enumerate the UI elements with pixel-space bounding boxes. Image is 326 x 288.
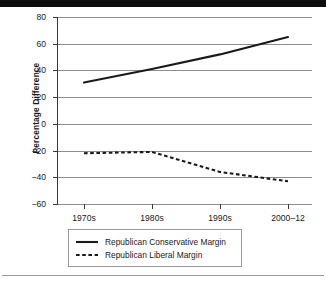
y-tick-label-0: 0 [41, 119, 46, 129]
line-chart-figure: Percentage Difference 80 60 40 20 0 −20 [0, 7, 326, 275]
chart-legend: Republican Conservative Margin Republica… [68, 229, 242, 267]
x-tick-label-1990s: 1990s [208, 213, 231, 223]
page-top-rule [0, 0, 326, 7]
y-axis-title: Percentage Difference [31, 28, 41, 188]
y-tick-label-80: 80 [36, 12, 46, 22]
series-line-republican-conservative-margin [84, 37, 288, 82]
legend-item-republican-liberal-margin: Republican Liberal Margin [76, 248, 233, 261]
gridline-neg60 [57, 204, 312, 205]
x-tick-label-1970s: 1970s [72, 213, 95, 223]
series-canvas [57, 17, 312, 204]
legend-solid-line-icon [76, 237, 98, 247]
y-tick-label-60: 60 [36, 39, 46, 49]
page-bottom-rule [2, 275, 324, 276]
x-tick-mark-2000-12 [288, 204, 289, 209]
y-tick-label-40: 40 [36, 65, 46, 75]
legend-dashed-line-icon [76, 250, 98, 260]
x-tick-label-2000-12: 2000–12 [271, 213, 304, 223]
plot-area: 80 60 40 20 0 −20 −40 −60 1970s 1980s 1 [57, 17, 312, 203]
legend-label-1: Republican Liberal Margin [105, 250, 202, 260]
x-tick-mark-1990s [220, 204, 221, 209]
legend-item-republican-conservative-margin: Republican Conservative Margin [76, 235, 233, 248]
x-tick-label-1980s: 1980s [140, 213, 163, 223]
y-tick-label-20: 20 [36, 92, 46, 102]
series-line-republican-liberal-margin [84, 152, 288, 181]
y-tick-label-neg20: −20 [31, 146, 46, 156]
y-tick-label-neg60: −60 [31, 199, 46, 209]
y-tick-mark-neg60: −60 [53, 204, 58, 205]
legend-label-0: Republican Conservative Margin [105, 237, 226, 247]
y-tick-label-neg40: −40 [31, 172, 46, 182]
x-tick-mark-1970s [84, 204, 85, 209]
x-tick-mark-1980s [152, 204, 153, 209]
